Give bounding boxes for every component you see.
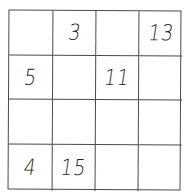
grid-cell[interactable] (96, 100, 139, 145)
cell-value: 11 (103, 67, 132, 89)
grid-cell[interactable] (53, 100, 96, 145)
cell-value: 3 (66, 22, 82, 44)
grid-cell[interactable] (53, 56, 96, 100)
grid-cell[interactable] (139, 100, 182, 145)
cell-value: 5 (23, 66, 39, 88)
grid-cell[interactable]: 3 (53, 11, 96, 56)
grid-cell[interactable] (9, 11, 53, 56)
grid-cell[interactable] (139, 56, 182, 100)
grid-cell[interactable]: 11 (96, 56, 139, 100)
cell-value: 13 (146, 22, 175, 44)
grid-cell[interactable]: 15 (53, 145, 96, 191)
number-grid: 3 13 5 11 4 15 (8, 10, 182, 191)
grid-cell[interactable] (96, 145, 139, 191)
grid-cell[interactable]: 5 (9, 56, 53, 100)
cell-value: 15 (59, 157, 88, 179)
cell-value: 4 (22, 157, 38, 179)
grid-cell[interactable]: 13 (139, 11, 182, 56)
grid-cell[interactable]: 4 (9, 145, 53, 191)
grid-cell[interactable] (96, 11, 139, 56)
grid-cell[interactable] (139, 145, 182, 191)
grid-cell[interactable] (9, 100, 53, 145)
